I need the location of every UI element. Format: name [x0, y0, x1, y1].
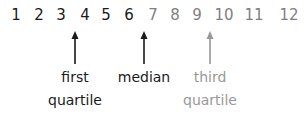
marker-label: median: [118, 66, 170, 89]
number-8: 8: [170, 6, 180, 24]
number-1: 1: [11, 6, 21, 24]
number-4: 4: [80, 6, 90, 24]
number-12: 12: [279, 6, 298, 24]
up-arrow-icon: [70, 31, 80, 65]
number-9: 9: [192, 6, 202, 24]
marker-label-line1: median: [118, 66, 170, 89]
number-5: 5: [101, 6, 111, 24]
number-10: 10: [214, 6, 233, 24]
number-7: 7: [148, 6, 158, 24]
up-arrow-icon: [205, 31, 215, 65]
up-arrow-icon: [139, 31, 149, 65]
number-3: 3: [56, 6, 66, 24]
number-6: 6: [124, 6, 134, 24]
marker-label-line2: quartile: [48, 89, 102, 112]
marker-label-line2: quartile: [183, 89, 237, 112]
number-2: 2: [34, 6, 44, 24]
marker-label: thirdquartile: [183, 66, 237, 112]
marker-label: firstquartile: [48, 66, 102, 112]
number-11: 11: [244, 6, 263, 24]
marker-label-line1: first: [48, 66, 102, 89]
marker-label-line1: third: [183, 66, 237, 89]
